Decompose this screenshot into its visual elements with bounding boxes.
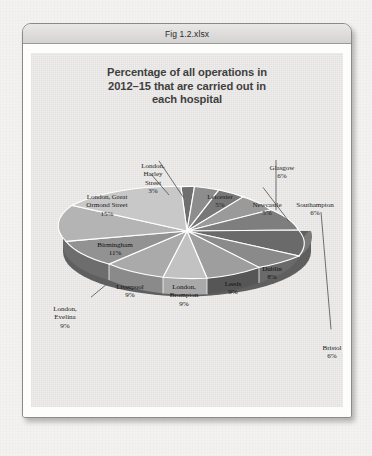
label-london-harley-street: London, Harley Street 3%	[131, 162, 175, 195]
label-glasgow: Glasgow 6%	[259, 164, 305, 181]
label-liverpool: Liverpool 9%	[105, 283, 155, 300]
spreadsheet-window: Fig 1.2.xlsx Percentage of all operation…	[22, 23, 352, 418]
leader-line-bristol	[321, 212, 331, 329]
label-southampton: Southampton 6%	[287, 201, 343, 218]
label-london-great-ormond-street: London, Great Ormond Street 15%	[67, 193, 147, 218]
label-leicester: Leicester 5%	[196, 193, 244, 210]
label-london-evelina: London, Evelina 9%	[41, 305, 89, 330]
label-birmingham: Birmingham 11%	[79, 241, 151, 258]
label-newcastle: Newcastle 5%	[243, 201, 291, 218]
window-title-text: Fig 1.2.xlsx	[165, 29, 209, 39]
pie-chart-graphic[interactable]	[31, 53, 343, 407]
label-london-brompton: London, Brompton 9%	[157, 283, 211, 308]
label-dublin: Dublin 8%	[251, 265, 293, 282]
label-leeds: Leeds 9%	[213, 280, 253, 297]
label-bristol: Bristol 6%	[313, 344, 343, 361]
window-body: Percentage of all operations in 2012–15 …	[23, 44, 351, 417]
chart-plot-area[interactable]: Percentage of all operations in 2012–15 …	[31, 53, 343, 407]
window-title-bar[interactable]: Fig 1.2.xlsx	[23, 24, 351, 44]
